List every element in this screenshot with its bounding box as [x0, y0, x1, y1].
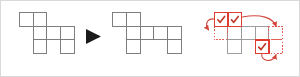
- grid-cell: [33, 40, 47, 54]
- grid-cell: [168, 40, 182, 54]
- grid-cell: [60, 40, 74, 54]
- grid-cell: [19, 13, 33, 27]
- before-shape: [19, 13, 74, 54]
- move-arrow-left: [207, 19, 214, 30]
- grid-cell: [60, 26, 74, 40]
- grid-cell: [127, 13, 141, 27]
- grid-cell: [255, 26, 269, 40]
- dotted-target-cell: [214, 26, 228, 40]
- move-arrow-bottom-right: [262, 54, 276, 60]
- after-shape: [113, 13, 181, 54]
- grid-cell: [127, 40, 141, 54]
- grid-cell: [228, 40, 242, 54]
- grid-cell: [33, 13, 47, 27]
- move-arrow-top-right: [242, 16, 276, 27]
- checked-cell: [228, 13, 242, 27]
- grid-cell: [228, 26, 242, 40]
- grid-cell: [113, 13, 127, 27]
- grid-cell: [33, 26, 47, 40]
- diagram-frame: Polyomino transformation diagram A polyo…: [0, 0, 300, 77]
- grid-cell: [47, 26, 61, 40]
- grid-cell: [154, 26, 168, 40]
- diagram-canvas: [1, 1, 299, 76]
- grid-cell: [168, 26, 182, 40]
- checked-cell: [214, 13, 228, 27]
- grid-cell: [242, 26, 256, 40]
- annotated-shape: [207, 13, 283, 61]
- grid-cell: [140, 26, 154, 40]
- checked-cell: [255, 40, 269, 54]
- dotted-target-cell: [269, 40, 283, 54]
- dotted-target-cell: [269, 26, 283, 40]
- grid-cell: [127, 26, 141, 40]
